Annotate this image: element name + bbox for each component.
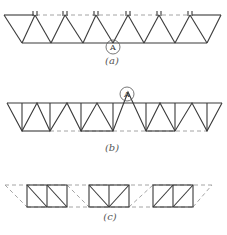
caption-c: (c): [103, 211, 116, 222]
caption-b: (b): [105, 142, 119, 153]
truss-diagram: A A: [0, 0, 227, 235]
panel-c-truss: [5, 185, 212, 207]
caption-a: (a): [105, 55, 119, 66]
marker-b-label: A: [123, 90, 130, 99]
marker-a-label: A: [109, 43, 116, 52]
panel-a-truss: A: [4, 11, 221, 54]
panel-b-truss: A: [7, 87, 222, 131]
